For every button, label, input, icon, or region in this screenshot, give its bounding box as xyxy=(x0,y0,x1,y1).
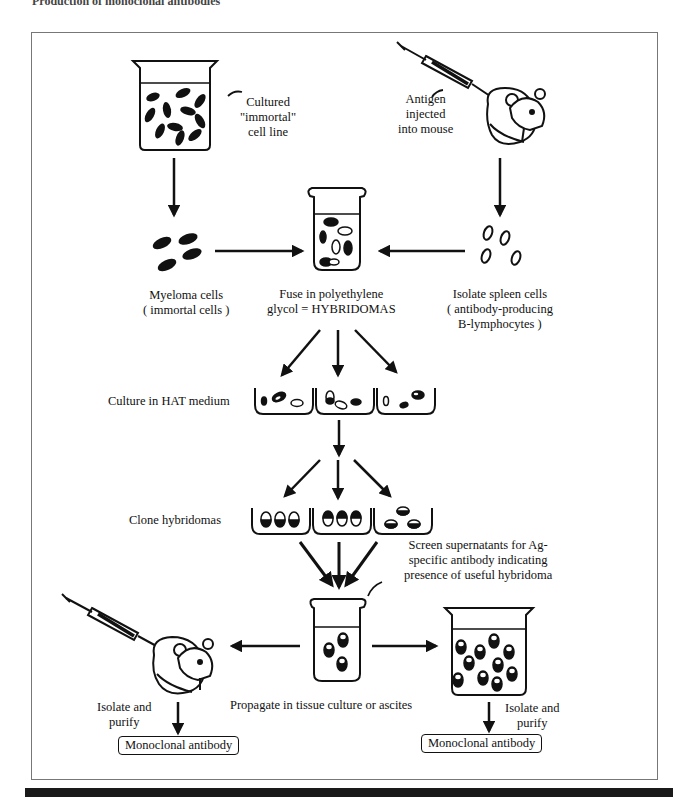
arrow-icon xyxy=(346,542,377,585)
label-propagate: Propagate in tissue culture or ascites xyxy=(230,698,412,713)
arrow-icon xyxy=(282,330,320,375)
arrow-icon xyxy=(355,330,396,372)
diagram-art xyxy=(0,0,695,800)
label-screen: Screen supernatants for Ag- specific ant… xyxy=(404,538,552,583)
label-isolate-left: Isolate and purify xyxy=(97,700,152,730)
label-clone: Clone hybridomas xyxy=(129,513,221,528)
label-isolate-right: Isolate and purify xyxy=(505,701,560,731)
output-monoclonal-left: Monoclonal antibody xyxy=(118,736,239,755)
syringe-icon xyxy=(62,594,160,648)
culture-well-icon xyxy=(255,388,435,414)
arrow-icon xyxy=(354,460,390,496)
culture-well-icon xyxy=(252,507,432,534)
arrow-icon xyxy=(300,542,332,585)
test-tube-icon xyxy=(310,599,365,681)
test-tube-icon xyxy=(308,188,365,270)
output-monoclonal-right: Monoclonal antibody xyxy=(421,734,542,753)
mouse-icon xyxy=(487,88,545,144)
label-cultured-line: Cultured "immortal" cell line xyxy=(240,95,296,140)
beaker-icon xyxy=(133,61,217,150)
myeloma-cells xyxy=(151,231,203,274)
beaker-icon xyxy=(445,608,533,695)
label-myeloma: Myeloma cells ( immortal cells ) xyxy=(143,288,229,318)
label-fuse: Fuse in polyethylene glycol = HYBRIDOMAS xyxy=(267,287,396,317)
label-hat-medium: Culture in HAT medium xyxy=(108,394,230,409)
spleen-cells xyxy=(480,225,522,266)
arrow-icon xyxy=(285,460,320,496)
label-antigen: Antigen injected into mouse xyxy=(398,92,453,137)
mouse-icon xyxy=(153,637,213,693)
label-spleen: Isolate spleen cells ( antibody-producin… xyxy=(447,287,553,332)
